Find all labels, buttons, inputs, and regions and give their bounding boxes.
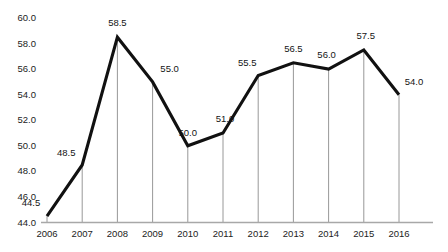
y-axis-tick-label: 54.0	[0, 90, 36, 100]
data-point-label: 48.5	[57, 148, 76, 158]
x-axis-tick-label: 2011	[213, 228, 233, 239]
x-axis-tick-label: 2006	[36, 228, 57, 239]
y-axis-tick-label: 50.0	[0, 141, 36, 151]
y-axis-tick-label: 52.0	[0, 116, 36, 126]
plot-area: 44.548.558.555.050.051.055.556.556.057.5…	[41, 0, 441, 252]
x-axis-tick-label: 2014	[318, 228, 339, 239]
data-point-label: 55.5	[238, 58, 257, 68]
data-point-label: 56.5	[284, 44, 303, 54]
data-point-label: 55.0	[160, 64, 179, 74]
x-axis-tick-label: 2015	[353, 228, 374, 239]
line-chart: PERMANENT ESTATE 60.058.056.054.052.050.…	[0, 0, 448, 252]
drop-lines-group	[47, 37, 399, 222]
x-axis-tick-label: 2013	[283, 228, 304, 239]
y-axis-tick-label: 48.0	[0, 167, 36, 177]
data-point-label: 54.0	[405, 77, 424, 87]
data-point-label: 58.5	[108, 18, 127, 28]
y-axis-tick-label: 56.0	[0, 64, 36, 74]
x-axis-tick-label: 2009	[142, 228, 163, 239]
x-axis-tick-label: 2010	[177, 228, 198, 239]
y-axis: 60.058.056.054.052.050.048.046.044.0	[0, 0, 38, 252]
data-point-label: 56.0	[317, 50, 336, 60]
y-axis-tick-label: 44.0	[0, 218, 36, 228]
data-point-label: 50.0	[179, 128, 198, 138]
x-axis-tick-label: 2012	[248, 228, 269, 239]
data-point-label: 44.5	[22, 198, 41, 208]
y-axis-tick-label: 58.0	[0, 39, 36, 49]
data-point-label: 57.5	[357, 31, 376, 41]
x-axis-tick-label: 2016	[388, 228, 409, 239]
data-point-label: 51.0	[216, 114, 235, 124]
x-axis: 2006200720082009201020112012201320142015…	[41, 228, 441, 248]
plot-svg	[41, 0, 441, 252]
x-axis-tick-label: 2007	[72, 228, 93, 239]
x-axis-tick-label: 2008	[107, 228, 128, 239]
y-axis-tick-label: 60.0	[0, 13, 36, 23]
